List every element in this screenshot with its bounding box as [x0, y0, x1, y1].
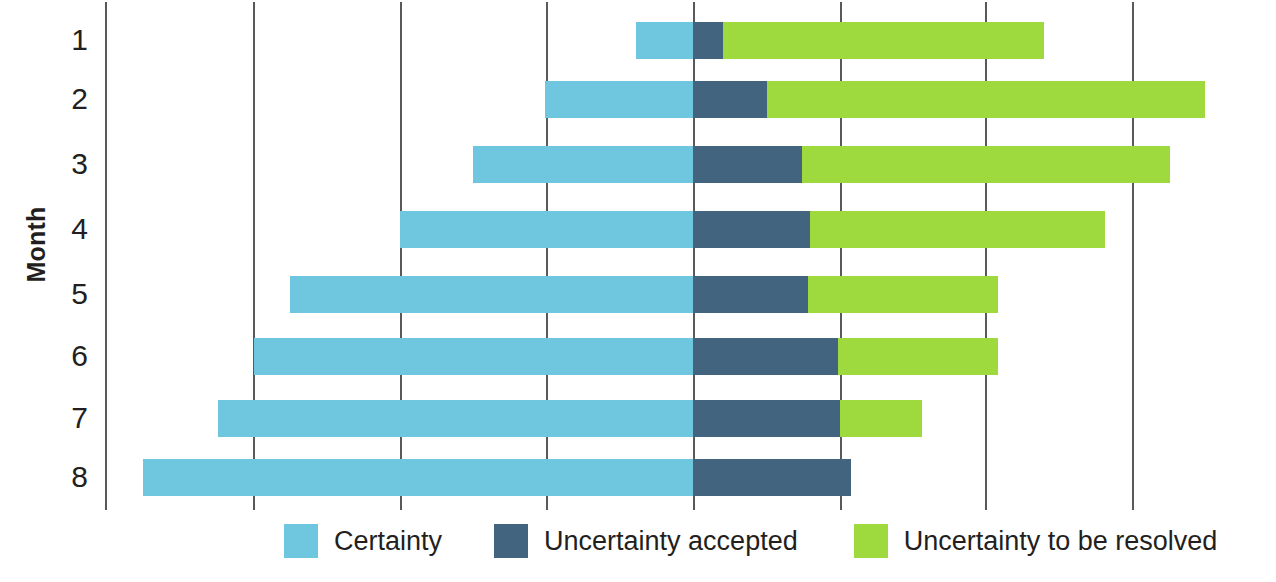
legend-label: Uncertainty accepted [544, 528, 798, 555]
bar-row [0, 276, 998, 313]
bar-segment-uncertainty-accepted [693, 146, 802, 183]
bar-row [0, 146, 1170, 183]
bar-segment-uncertainty-resolved [802, 146, 1170, 183]
legend-swatch-icon [494, 524, 528, 558]
bar-segment-uncertainty-accepted [693, 81, 767, 118]
bar-segment-certainty [400, 211, 693, 248]
bar-segment-uncertainty-accepted [693, 276, 808, 313]
bar-row [0, 338, 998, 375]
legend-label: Certainty [334, 528, 442, 555]
bar-row [0, 81, 1205, 118]
bar-segment-certainty [290, 276, 693, 313]
bar-segment-certainty [545, 81, 693, 118]
bar-segment-certainty [254, 338, 693, 375]
bar-row [0, 459, 851, 496]
bar-segment-uncertainty-resolved [808, 276, 998, 313]
chart-area: Month 12345678 [0, 0, 1276, 520]
bar-row [0, 400, 922, 437]
legend-item: Uncertainty to be resolved [854, 524, 1218, 558]
bar-segment-uncertainty-resolved [767, 81, 1205, 118]
bar-segment-uncertainty-accepted [693, 22, 723, 59]
bar-row [0, 22, 1044, 59]
legend-swatch-icon [284, 524, 318, 558]
bar-row [0, 211, 1105, 248]
bar-segment-certainty [218, 400, 693, 437]
bar-segment-uncertainty-resolved [840, 400, 922, 437]
legend-swatch-icon [854, 524, 888, 558]
legend-label: Uncertainty to be resolved [904, 528, 1218, 555]
bar-segment-uncertainty-accepted [693, 459, 851, 496]
bar-segment-certainty [143, 459, 693, 496]
bar-segment-uncertainty-accepted [693, 400, 840, 437]
bar-segment-uncertainty-resolved [810, 211, 1105, 248]
legend-item: Uncertainty accepted [494, 524, 798, 558]
legend-item: Certainty [284, 524, 442, 558]
bar-segment-uncertainty-accepted [693, 338, 838, 375]
plot-bars [0, 0, 1276, 520]
bar-segment-certainty [473, 146, 693, 183]
bar-segment-uncertainty-resolved [723, 22, 1044, 59]
chart-legend: CertaintyUncertainty acceptedUncertainty… [0, 524, 1276, 582]
bar-segment-uncertainty-resolved [838, 338, 998, 375]
bar-segment-certainty [636, 22, 693, 59]
bar-segment-uncertainty-accepted [693, 211, 810, 248]
